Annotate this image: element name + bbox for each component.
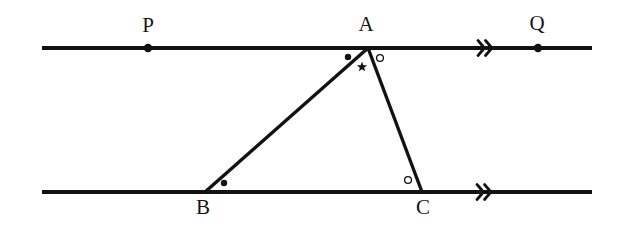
geometry-canvas: P A Q B C bbox=[0, 0, 617, 228]
vertex-label-p: P bbox=[142, 13, 154, 37]
vertex-label-c: C bbox=[416, 195, 430, 219]
angle-mark-c-circle bbox=[405, 177, 412, 184]
vertex-label-a: A bbox=[358, 12, 374, 36]
point-dot-p bbox=[144, 44, 152, 52]
angle-mark-a-star bbox=[357, 62, 367, 72]
point-dot-q bbox=[534, 44, 542, 52]
triangle-side-ab bbox=[205, 48, 368, 192]
angle-mark-a-left-dot bbox=[345, 54, 351, 60]
triangle-side-ac bbox=[368, 48, 422, 192]
angle-mark-a-right-circle bbox=[377, 55, 384, 62]
vertex-label-b: B bbox=[196, 195, 210, 219]
geometry-figure: P A Q B C bbox=[0, 0, 617, 228]
vertex-label-q: Q bbox=[529, 11, 544, 35]
angle-mark-b-dot bbox=[221, 180, 227, 186]
